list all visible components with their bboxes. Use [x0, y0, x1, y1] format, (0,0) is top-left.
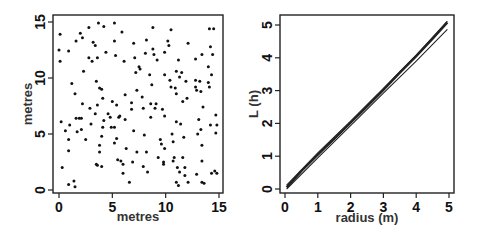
data-point: [96, 56, 99, 59]
data-point: [149, 102, 152, 105]
data-point: [115, 137, 118, 140]
data-point: [171, 133, 174, 136]
data-point: [146, 171, 149, 174]
lfunction-lines: [287, 21, 448, 189]
data-point: [207, 65, 210, 68]
data-point: [101, 126, 104, 129]
data-point: [195, 89, 198, 92]
data-point: [134, 71, 137, 74]
data-point: [175, 92, 178, 95]
data-point: [154, 107, 157, 110]
data-point: [74, 185, 77, 188]
data-point: [181, 100, 184, 103]
data-point: [215, 172, 218, 175]
data-point: [68, 124, 71, 127]
data-point: [81, 102, 84, 105]
figure: 051015 051015 metres metres 012345 01234…: [0, 0, 479, 242]
data-point: [208, 27, 211, 30]
data-point: [95, 80, 98, 83]
data-point: [135, 89, 138, 92]
data-point: [114, 54, 117, 57]
scatter-plot-frame: [53, 15, 223, 193]
data-point: [60, 120, 63, 123]
data-point: [113, 40, 116, 43]
data-point: [203, 182, 206, 185]
data-point: [211, 53, 214, 56]
data-point: [124, 93, 127, 96]
data-point: [163, 147, 166, 150]
data-point: [111, 100, 114, 103]
data-point: [209, 124, 212, 127]
y-tick-label: 2: [259, 119, 275, 127]
data-point: [199, 128, 202, 131]
data-point: [198, 80, 201, 83]
data-point: [130, 108, 133, 111]
data-point: [79, 32, 82, 35]
data-point: [80, 128, 83, 131]
data-point: [197, 118, 200, 121]
data-point: [100, 88, 103, 91]
data-point: [102, 119, 105, 122]
data-point: [209, 45, 212, 48]
data-point: [195, 173, 198, 176]
data-point: [81, 36, 84, 39]
data-point: [119, 159, 122, 162]
data-point: [194, 85, 197, 88]
data-point: [132, 42, 135, 45]
data-point: [210, 73, 213, 76]
data-point: [173, 156, 176, 159]
data-point: [124, 118, 127, 121]
data-point: [187, 181, 190, 184]
data-point: [88, 107, 91, 110]
data-point: [113, 22, 116, 25]
y-tick-label: 3: [259, 86, 275, 94]
lfunction-panel: 012345 012345 radius (m) L (h): [246, 15, 454, 225]
data-point: [75, 40, 78, 43]
data-point: [128, 181, 131, 184]
data-point: [156, 59, 159, 62]
data-point: [87, 26, 90, 29]
data-point: [101, 97, 104, 100]
data-point: [76, 130, 79, 133]
data-point: [87, 56, 90, 59]
data-point: [177, 59, 180, 62]
y-tick-label: 4: [259, 54, 275, 62]
data-point: [152, 53, 155, 56]
data-point: [172, 159, 175, 162]
data-point: [174, 87, 177, 90]
data-point: [200, 159, 203, 162]
data-point: [166, 40, 169, 43]
x-tick-label: 0: [281, 199, 289, 215]
data-point: [214, 131, 217, 134]
data-point: [125, 147, 128, 150]
y-tick-label: 1: [259, 152, 275, 160]
data-point: [163, 73, 166, 76]
data-point: [172, 140, 175, 143]
data-point: [194, 79, 197, 82]
data-point: [141, 96, 144, 99]
data-point: [149, 116, 152, 119]
scatter-panel: 051015 051015 metres metres: [20, 14, 227, 224]
data-point: [107, 112, 110, 115]
data-point: [84, 138, 87, 141]
data-point: [196, 133, 199, 136]
data-point: [148, 73, 151, 76]
data-point: [175, 70, 178, 73]
data-point: [207, 81, 210, 84]
data-point: [183, 166, 186, 169]
data-point: [97, 22, 100, 25]
data-point: [104, 51, 107, 54]
data-point: [120, 31, 123, 34]
data-point: [142, 165, 145, 168]
data-point: [113, 126, 116, 129]
data-point: [176, 166, 179, 169]
data-point: [67, 138, 70, 141]
data-point: [167, 44, 170, 47]
data-point: [186, 97, 189, 100]
data-point: [64, 129, 67, 132]
x-tick-label: 5: [445, 199, 453, 215]
lfunction-x-axis-title: radius (m): [336, 210, 399, 225]
data-point: [130, 101, 133, 104]
data-point: [135, 150, 138, 153]
data-point: [131, 161, 134, 164]
